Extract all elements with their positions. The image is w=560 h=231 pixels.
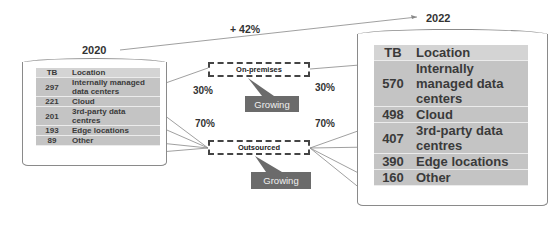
table-row: 570 Internallymanaged datacenters — [374, 61, 528, 107]
cell-tb: 89 — [36, 136, 68, 146]
table-2020: TB Location 297 Internally manageddata c… — [36, 68, 160, 146]
cell-location: Edge locations — [68, 126, 160, 136]
onprem-box: On-premises — [208, 62, 310, 77]
cell-location: Other — [412, 170, 528, 186]
table-2022: TB Location 570 Internallymanaged datace… — [374, 45, 528, 186]
right-onprem-pct: 30% — [315, 82, 335, 93]
right-outsourced-pct: 70% — [315, 118, 335, 129]
cell-location: Internallymanaged datacenters — [412, 61, 528, 107]
cell-location: Cloud — [68, 97, 160, 107]
table-row: 221 Cloud — [36, 97, 160, 107]
year-2020-label: 2020 — [82, 44, 106, 56]
cell-tb: 193 — [36, 126, 68, 136]
header-location: Location — [68, 68, 160, 78]
cell-tb: 221 — [36, 97, 68, 107]
cell-tb: 297 — [36, 78, 68, 97]
table-row: 160 Other — [374, 170, 528, 186]
cell-tb: 390 — [374, 154, 412, 170]
cell-tb: 570 — [374, 61, 412, 107]
callout-tail-onprem — [248, 78, 274, 96]
outsourced-box: Outsourced — [208, 140, 310, 155]
header-tb: TB — [36, 68, 68, 78]
cell-tb: 201 — [36, 107, 68, 126]
cell-tb: 407 — [374, 123, 412, 154]
table-row: 407 3rd-party datacentres — [374, 123, 528, 154]
left-onprem-pct: 30% — [193, 85, 213, 96]
table-row: 390 Edge locations — [374, 154, 528, 170]
callout-tail-outsourced — [255, 156, 282, 172]
year-2022-label: 2022 — [426, 12, 450, 24]
table-header: TB Location — [36, 68, 160, 78]
cell-location: 3rd-party datacentres — [68, 107, 160, 126]
table-row: 498 Cloud — [374, 107, 528, 123]
table-header: TB Location — [374, 45, 528, 61]
cell-location: Cloud — [412, 107, 528, 123]
growth-label: + 42% — [230, 23, 260, 35]
growth-arrow-head — [411, 15, 417, 19]
cell-location: 3rd-party datacentres — [412, 123, 528, 154]
table-row: 89 Other — [36, 136, 160, 146]
table-row: 297 Internally manageddata centers — [36, 78, 160, 97]
cell-location: Internally manageddata centers — [68, 78, 160, 97]
cell-location: Edge locations — [412, 154, 528, 170]
table-row: 201 3rd-party datacentres — [36, 107, 160, 126]
cell-tb: 160 — [374, 170, 412, 186]
table-row: 193 Edge locations — [36, 126, 160, 136]
callout-onprem-growing: Growing — [245, 96, 299, 112]
header-tb: TB — [374, 45, 412, 61]
callout-outsourced-growing: Growing — [251, 172, 311, 189]
cell-tb: 498 — [374, 107, 412, 123]
header-location: Location — [412, 45, 528, 61]
cell-location: Other — [68, 136, 160, 146]
left-outsourced-pct: 70% — [195, 118, 215, 129]
